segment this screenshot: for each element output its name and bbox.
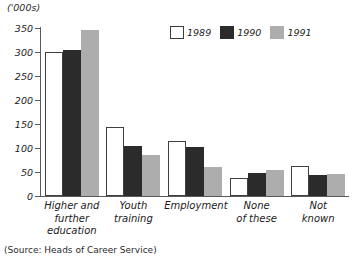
bar-1989 (291, 166, 309, 196)
bar-group (291, 28, 345, 196)
x-axis-label-line: Not (287, 200, 349, 213)
bar-group (106, 28, 160, 196)
bar-group (45, 28, 99, 196)
bar-1991 (142, 155, 160, 196)
y-axis-units-label: ('000s) (7, 2, 40, 13)
bar-1989 (230, 178, 248, 196)
bar-1990 (309, 175, 327, 196)
x-axis-label-line: Youth (103, 200, 165, 213)
x-axis-line (40, 196, 349, 197)
bar-group (168, 28, 222, 196)
bar-1990 (186, 147, 204, 196)
x-axis-label: Higher andfurthereducation (41, 200, 103, 238)
y-tick-label: 50 (3, 167, 33, 178)
bar-chart: ('000s) 1989 1990 1991 05010015020025030… (0, 0, 353, 261)
x-axis-label: Noneof these (226, 200, 288, 225)
x-axis-label-line: Higher and (41, 200, 103, 213)
y-tick-label: 300 (3, 47, 33, 58)
y-tick-label: 350 (3, 23, 33, 34)
bar-1990 (63, 50, 81, 196)
plot-area (41, 28, 349, 196)
x-axis-label-line: education (41, 225, 103, 238)
bar-1989 (168, 141, 186, 196)
y-tick-label: 0 (3, 191, 33, 202)
y-tick-label: 250 (3, 71, 33, 82)
bar-1990 (124, 146, 142, 196)
x-axis-label-line: training (103, 213, 165, 226)
bar-1991 (204, 167, 222, 196)
y-tick-label: 150 (3, 119, 33, 130)
x-axis-label: Employment (164, 200, 226, 213)
bar-1991 (327, 174, 345, 196)
x-axis-label-line: further (41, 213, 103, 226)
source-note: (Source: Heads of Career Service) (4, 245, 157, 255)
bar-1989 (106, 127, 124, 196)
bar-1990 (248, 173, 266, 196)
x-axis-label-line: of these (226, 213, 288, 226)
y-tick-label: 200 (3, 95, 33, 106)
x-axis-label: Youthtraining (103, 200, 165, 225)
bar-1991 (266, 170, 284, 196)
y-tick-label: 100 (3, 143, 33, 154)
x-axis-label: Notknown (287, 200, 349, 225)
y-tick-mark (35, 196, 41, 197)
x-axis-label-line: known (287, 213, 349, 226)
bar-1991 (81, 30, 99, 196)
bar-1989 (45, 52, 63, 196)
bar-group (230, 28, 284, 196)
x-axis-label-line: Employment (164, 200, 226, 213)
x-axis-label-line: None (226, 200, 288, 213)
